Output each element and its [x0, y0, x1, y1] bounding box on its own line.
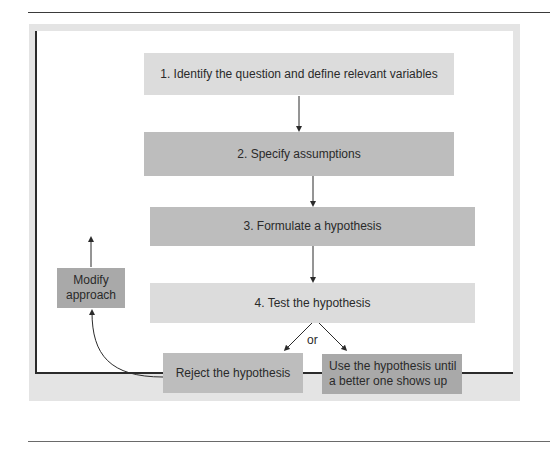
step-2-box: 2. Specify assumptions — [144, 132, 454, 176]
modify-approach-box: Modify approach — [57, 268, 125, 308]
step-4-box: 4. Test the hypothesis — [150, 283, 475, 323]
modify-approach-label: Modify approach — [61, 273, 121, 303]
step-4-label: 4. Test the hypothesis — [255, 296, 371, 311]
step-2-label: 2. Specify assumptions — [237, 147, 360, 162]
accept-label: Use the hypothesis until a better one sh… — [329, 359, 462, 389]
step-3-box: 3. Formulate a hypothesis — [150, 207, 475, 246]
branch-or-label: or — [307, 333, 318, 347]
reject-box: Reject the hypothesis — [163, 353, 303, 393]
step-1-box: 1. Identify the question and define rele… — [144, 53, 454, 95]
step-3-label: 3. Formulate a hypothesis — [243, 219, 381, 234]
step-1-label: 1. Identify the question and define rele… — [160, 67, 438, 82]
accept-box: Use the hypothesis until a better one sh… — [322, 354, 462, 394]
reject-label: Reject the hypothesis — [176, 366, 291, 381]
